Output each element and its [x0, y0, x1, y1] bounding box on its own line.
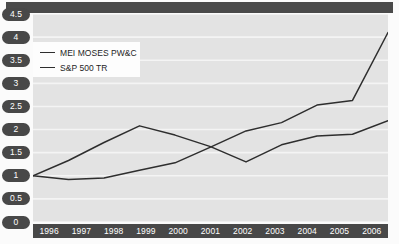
y-axis-label: 3.5	[2, 54, 30, 67]
y-axis-label: 2.5	[2, 100, 30, 113]
header-band	[6, 2, 393, 13]
y-axis-label: 0.5	[2, 192, 30, 205]
x-axis-label: 1998	[98, 224, 130, 238]
y-axis-label: 0	[2, 216, 30, 229]
y-axis-label: 4.5	[2, 8, 30, 21]
legend-label-mei-moses: MEI MOSES PW&C	[60, 48, 137, 58]
x-axis-label: 2002	[227, 224, 259, 238]
x-axis-label: 1997	[65, 224, 97, 238]
y-axis-label: 3	[2, 77, 30, 90]
chart-legend: MEI MOSES PW&C S&P 500 TR	[33, 42, 140, 77]
x-axis-label: 2005	[323, 224, 355, 238]
x-axis-label: 1999	[130, 224, 162, 238]
x-axis-label: 2003	[259, 224, 291, 238]
x-axis-label: 2001	[194, 224, 226, 238]
y-axis-label: 1	[2, 169, 30, 182]
legend-swatch-icon	[40, 67, 55, 68]
x-axis-label: 1996	[33, 224, 65, 238]
legend-item-mei-moses: MEI MOSES PW&C	[33, 45, 140, 60]
x-axis-label: 2000	[162, 224, 194, 238]
legend-swatch-icon	[40, 52, 55, 53]
y-axis-label: 4	[2, 31, 30, 44]
legend-item-sp500: S&P 500 TR	[33, 60, 140, 75]
x-axis-label: 2004	[291, 224, 323, 238]
chart-screenshot: 00.511.522.533.544.5 MEI MOSES PW&C S&P …	[0, 0, 399, 244]
y-axis-label: 1.5	[2, 146, 30, 159]
x-axis-label: 2006	[356, 224, 388, 238]
y-axis-label: 2	[2, 123, 30, 136]
y-axis: 00.511.522.533.544.5	[2, 14, 32, 222]
x-axis: 1996199719981999200020012002200320042005…	[33, 224, 388, 238]
legend-label-sp500: S&P 500 TR	[60, 63, 107, 73]
